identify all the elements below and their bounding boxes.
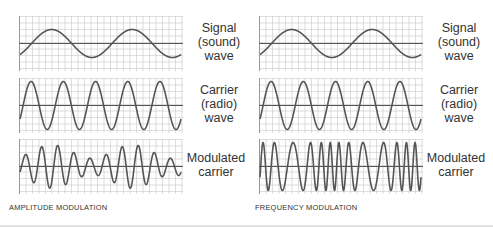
fm-modulated-carrier-graph — [259, 139, 423, 194]
carrier-wave-graphic — [19, 78, 183, 133]
am-carrier-wave-graph — [19, 78, 183, 133]
label-line: (radio) — [430, 97, 488, 111]
sine-wave-graphic — [259, 16, 423, 71]
carrier-wave-graphic — [259, 78, 423, 133]
fm-signal-label: Signal (sound) wave — [430, 21, 488, 63]
label-line: wave — [430, 111, 488, 125]
sine-wave-graphic — [19, 16, 183, 71]
label-line: carrier — [423, 165, 489, 179]
label-line: (sound) — [430, 35, 488, 49]
fm-carrier-label: Carrier (radio) wave — [430, 83, 488, 125]
am-wave-graphic — [19, 139, 183, 194]
label-line: Signal — [430, 21, 488, 35]
am-modulated-carrier-graph — [19, 139, 183, 194]
amplitude-modulation-caption: AMPLITUDE MODULATION — [9, 203, 107, 212]
fm-signal-wave-graph — [259, 16, 423, 71]
frequency-modulation-caption: FREQUENCY MODULATION — [255, 203, 357, 212]
fm-wave-graphic — [259, 139, 423, 194]
am-signal-wave-graph — [19, 16, 183, 71]
fm-modulated-label: Modulated carrier — [423, 151, 489, 179]
fm-carrier-wave-graph — [259, 78, 423, 133]
bottom-divider — [0, 225, 493, 227]
label-line: Modulated — [423, 151, 489, 165]
amplitude-modulation-column: Signal (sound) wave Carrier (radio) wave… — [0, 0, 245, 227]
label-line: Carrier — [430, 83, 488, 97]
label-line: wave — [430, 49, 488, 63]
frequency-modulation-column: Signal (sound) wave Carrier (radio) wave… — [240, 0, 485, 227]
